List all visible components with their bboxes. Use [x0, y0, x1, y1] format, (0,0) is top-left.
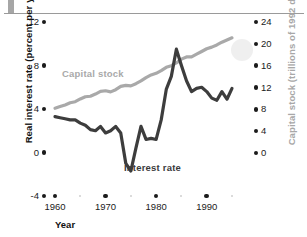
plot-area	[0, 0, 307, 237]
series-label-interest-rate: Interest rate	[124, 162, 181, 173]
scan-artifact-blob	[231, 39, 253, 61]
figure-chart-interest-rate-capital-stock: Real interest rate (percent per year) Ca…	[0, 0, 307, 237]
series-label-capital-stock: Capital stock	[62, 68, 124, 79]
